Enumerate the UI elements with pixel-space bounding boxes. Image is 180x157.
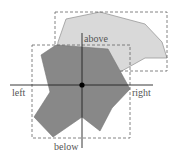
center-point (79, 82, 84, 87)
label-above: above (84, 33, 108, 44)
diagram-canvas: above left right below (0, 0, 180, 157)
label-below: below (54, 141, 79, 152)
label-right: right (132, 87, 151, 98)
label-left: left (12, 87, 26, 98)
